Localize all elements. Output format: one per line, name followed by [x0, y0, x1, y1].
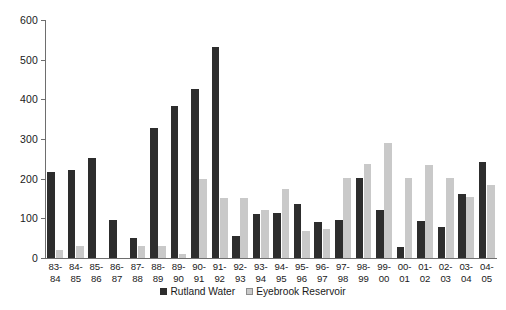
x-axis-label: 86-87	[107, 261, 128, 284]
bar-group	[333, 20, 354, 258]
x-axis-label-line2: 95	[271, 273, 292, 285]
bar-group	[271, 20, 292, 258]
x-axis-line	[45, 258, 497, 259]
bar-rutland-water	[376, 210, 384, 258]
bar-group	[415, 20, 436, 258]
x-axis-label-line1: 00-	[394, 261, 415, 273]
bar-group	[209, 20, 230, 258]
bar-group	[230, 20, 251, 258]
x-axis-label: 85-86	[86, 261, 107, 284]
bar-rutland-water	[130, 238, 138, 258]
y-axis-label: 400	[0, 94, 38, 105]
x-axis-label-line1: 88-	[148, 261, 169, 273]
bar-group	[456, 20, 477, 258]
x-axis-label-line1: 91-	[209, 261, 230, 273]
x-axis-label: 99-00	[374, 261, 395, 284]
x-axis-label-line2: 98	[333, 273, 354, 285]
x-axis-label-line1: 89-	[168, 261, 189, 273]
bar-rutland-water	[171, 106, 179, 258]
x-axis-label-line2: 88	[127, 273, 148, 285]
x-axis-label-line1: 83-	[45, 261, 66, 273]
bar-group	[312, 20, 333, 258]
x-axis-label-line1: 93-	[250, 261, 271, 273]
bar-group	[374, 20, 395, 258]
bar-rutland-water	[417, 221, 425, 258]
bar-chart: 0100200300400500600 83-8484-8585-8686-87…	[0, 0, 506, 310]
x-axis-label-line1: 86-	[107, 261, 128, 273]
x-axis-label: 92-93	[230, 261, 251, 284]
bar-rutland-water	[150, 128, 158, 258]
legend-swatch-icon	[160, 288, 167, 295]
x-axis-label-line2: 85	[66, 273, 87, 285]
bar-eyebrook-reservoir	[240, 198, 248, 258]
x-axis-label-line2: 94	[250, 273, 271, 285]
x-axis-label-line2: 89	[148, 273, 169, 285]
bar-rutland-water	[232, 236, 240, 258]
bar-rutland-water	[273, 213, 281, 258]
bar-rutland-water	[356, 178, 364, 258]
bar-group	[86, 20, 107, 258]
bar-group	[476, 20, 497, 258]
x-axis-label-line1: 85-	[86, 261, 107, 273]
x-axis-label-line1: 95-	[292, 261, 313, 273]
y-axis-label: 100	[0, 213, 38, 224]
bar-eyebrook-reservoir	[446, 178, 454, 258]
x-axis-label-line1: 87-	[127, 261, 148, 273]
y-axis-label: 600	[0, 15, 38, 26]
x-axis-label-line1: 84-	[66, 261, 87, 273]
x-axis-label: 83-84	[45, 261, 66, 284]
bar-rutland-water	[397, 247, 405, 258]
bar-rutland-water	[458, 194, 466, 258]
bar-rutland-water	[88, 158, 96, 258]
x-axis-label-line2: 91	[189, 273, 210, 285]
x-axis-label: 02-03	[435, 261, 456, 284]
bar-eyebrook-reservoir	[158, 246, 166, 258]
x-axis-label: 98-99	[353, 261, 374, 284]
x-axis-label-line2: 87	[107, 273, 128, 285]
x-axis-label-line1: 01-	[415, 261, 436, 273]
x-axis-label-line2: 96	[292, 273, 313, 285]
bar-rutland-water	[253, 214, 261, 258]
bar-eyebrook-reservoir	[76, 246, 84, 258]
bar-eyebrook-reservoir	[179, 254, 187, 258]
x-axis-label-line1: 03-	[456, 261, 477, 273]
bar-group	[45, 20, 66, 258]
x-axis-label-line1: 04-	[476, 261, 497, 273]
bar-group	[127, 20, 148, 258]
bar-group	[250, 20, 271, 258]
bar-eyebrook-reservoir	[199, 179, 207, 258]
bar-rutland-water	[109, 220, 117, 258]
x-axis-label: 91-92	[209, 261, 230, 284]
x-axis-label: 97-98	[333, 261, 354, 284]
x-axis-label: 88-89	[148, 261, 169, 284]
bar-group	[107, 20, 128, 258]
bar-rutland-water	[294, 204, 302, 258]
x-axis-label-line2: 00	[374, 273, 395, 285]
bar-eyebrook-reservoir	[323, 229, 331, 258]
bar-rutland-water	[47, 172, 55, 258]
legend-item: Eyebrook Reservoir	[246, 286, 345, 297]
bar-eyebrook-reservoir	[282, 189, 290, 258]
y-axis-label: 300	[0, 134, 38, 145]
bar-eyebrook-reservoir	[302, 231, 310, 258]
x-axis-label: 89-90	[168, 261, 189, 284]
bar-eyebrook-reservoir	[261, 210, 269, 258]
bar-rutland-water	[479, 162, 487, 258]
bar-rutland-water	[212, 47, 220, 258]
x-axis-label-line2: 04	[456, 273, 477, 285]
bar-rutland-water	[438, 227, 446, 258]
bar-group	[148, 20, 169, 258]
x-axis-label: 84-85	[66, 261, 87, 284]
x-axis-label: 96-97	[312, 261, 333, 284]
y-axis-label: 200	[0, 174, 38, 185]
bar-rutland-water	[335, 220, 343, 258]
bar-group	[394, 20, 415, 258]
x-axis-label-line1: 94-	[271, 261, 292, 273]
bar-eyebrook-reservoir	[487, 185, 495, 258]
bar-group	[189, 20, 210, 258]
legend-swatch-icon	[246, 288, 253, 295]
y-axis-label: 0	[0, 253, 38, 264]
x-axis-label-line2: 93	[230, 273, 251, 285]
bar-rutland-water	[191, 89, 199, 258]
x-axis-label: 90-91	[189, 261, 210, 284]
